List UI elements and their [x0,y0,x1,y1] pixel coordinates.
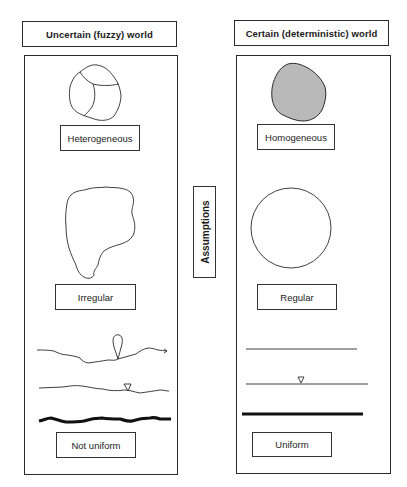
regular-circle-icon [251,188,331,268]
heterogeneous-shape-icon [69,65,121,121]
heterogeneous-label: Heterogeneous [68,133,133,144]
homogeneous-label-box: Homogeneous [257,124,335,150]
not-uniform-label-box: Not uniform [56,432,136,458]
uniform-label-box: Uniform [252,432,332,457]
uniform-label: Uniform [275,439,308,450]
nonuniform-top-surface-icon [37,335,167,363]
regular-label: Regular [280,292,313,303]
diagram-drawings [0,0,407,487]
nonuniform-water-level-icon [39,384,169,393]
homogeneous-label: Homogeneous [265,132,327,143]
not-uniform-label: Not uniform [71,440,120,451]
irregular-label-box: Irregular [55,284,136,310]
irregular-shape-icon [66,187,135,278]
irregular-label: Irregular [78,292,113,303]
heterogeneous-label-box: Heterogeneous [60,125,140,151]
homogeneous-shape-icon [272,63,326,121]
uniform-water-level-icon [246,377,368,384]
nonuniform-thick-layer-icon [39,418,171,422]
regular-label-box: Regular [257,284,337,310]
